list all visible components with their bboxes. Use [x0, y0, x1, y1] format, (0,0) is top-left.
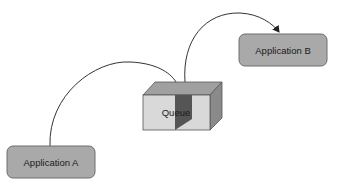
message-queue-diagram: Application A Application B Queue: [0, 0, 338, 187]
node-application-a[interactable]: Application A: [7, 146, 95, 178]
node-queue[interactable]: Queue: [143, 82, 222, 130]
application-a-label: Application A: [24, 157, 80, 168]
queue-label: Queue: [162, 107, 191, 118]
node-application-b[interactable]: Application B: [239, 34, 327, 66]
application-b-label: Application B: [255, 45, 310, 56]
queue-top-face: [143, 82, 222, 95]
